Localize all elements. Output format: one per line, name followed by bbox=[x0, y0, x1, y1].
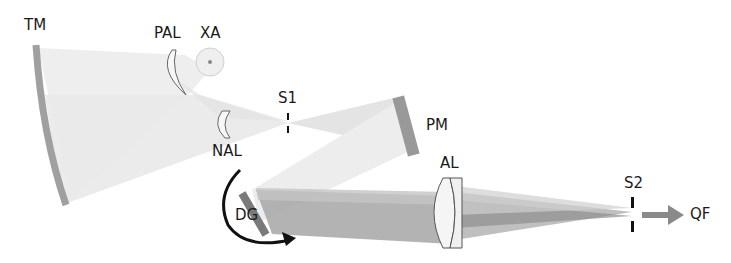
output-arrowhead-icon bbox=[668, 205, 684, 225]
label-s2: S2 bbox=[624, 176, 643, 191]
label-pal: PAL bbox=[154, 26, 181, 41]
label-nal: NAL bbox=[212, 144, 242, 159]
label-al: AL bbox=[440, 156, 459, 171]
xa-aperture-center bbox=[208, 60, 212, 64]
label-s1: S1 bbox=[278, 91, 297, 106]
label-dg: DG bbox=[235, 208, 258, 223]
diagram-canvas bbox=[0, 0, 731, 263]
label-qf: QF bbox=[690, 207, 710, 222]
optical-diagram: TM PAL XA NAL S1 PM DG AL S2 QF bbox=[0, 0, 731, 263]
slit-s1-top bbox=[287, 113, 289, 120]
slit-s2-bottom bbox=[631, 221, 634, 232]
label-xa: XA bbox=[200, 26, 221, 41]
label-pm: PM bbox=[426, 118, 448, 133]
slit-s2-top bbox=[631, 197, 634, 208]
slit-s1-bottom bbox=[287, 126, 289, 133]
output-arrow-shaft bbox=[642, 212, 670, 218]
label-tm: TM bbox=[24, 18, 46, 33]
